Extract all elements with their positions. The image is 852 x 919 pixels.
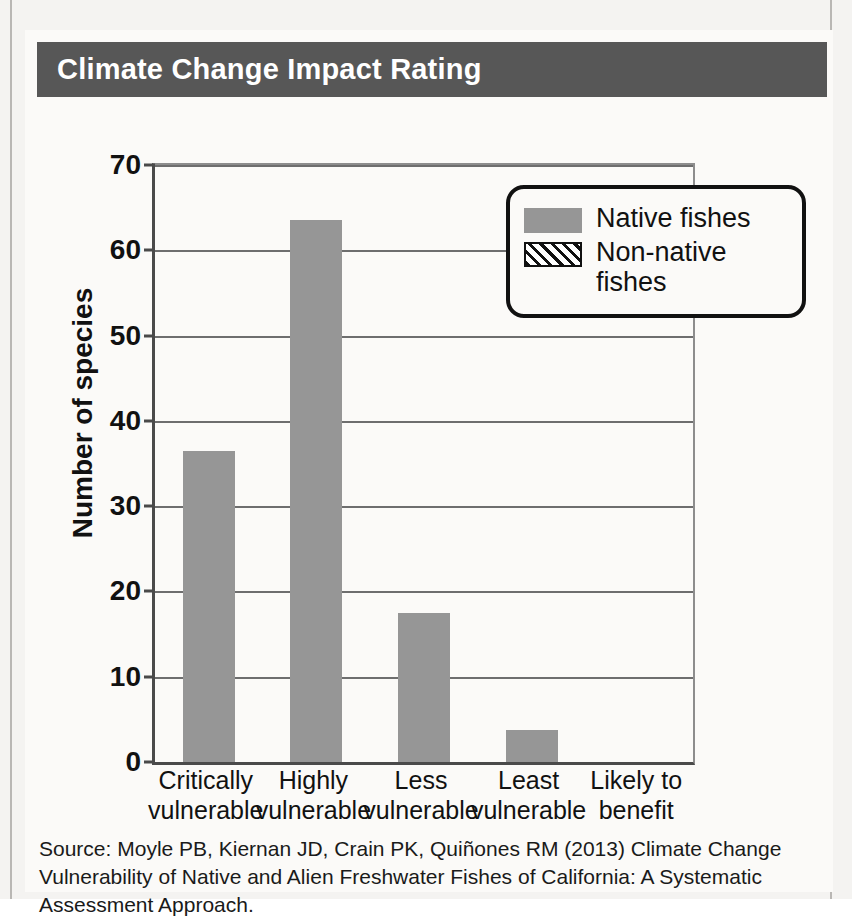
chart-card: Climate Change Impact Rating Number of s… xyxy=(25,30,833,892)
x-axis-category-label: Lessvulnerable xyxy=(363,766,478,825)
x-axis-category-label: Leastvulnerable xyxy=(471,766,586,825)
y-axis-tick-mark xyxy=(144,419,155,422)
x-axis-labels: CriticallyvulnerableHighlyvulnerableLess… xyxy=(152,766,696,836)
y-axis-tick-label: 30 xyxy=(110,490,141,522)
legend-swatch-hatched xyxy=(524,242,582,267)
chart-area: Number of species 010203040506070 Critic… xyxy=(25,97,833,827)
y-axis-tick-label: 0 xyxy=(125,746,141,778)
gridline xyxy=(155,506,693,508)
gridline xyxy=(155,591,693,593)
x-axis-category-label: Likely tobenefit xyxy=(590,766,682,825)
legend-item[interactable]: Native fishes xyxy=(524,203,788,233)
legend-swatch-solid xyxy=(524,208,582,233)
legend-item[interactable]: Non-native fishes xyxy=(524,237,788,297)
y-axis-tick-mark xyxy=(144,164,155,167)
page-column-rule-left xyxy=(10,0,12,899)
bar xyxy=(290,220,342,762)
y-axis-tick-label: 50 xyxy=(110,320,141,352)
source-caption: Source: Moyle PB, Kiernan JD, Crain PK, … xyxy=(39,835,821,919)
gridline xyxy=(155,165,693,167)
y-axis-tick-mark xyxy=(144,334,155,337)
page-title: Climate Change Impact Rating xyxy=(37,53,482,86)
gridline xyxy=(155,421,693,423)
x-axis-category-label: Highlyvulnerable xyxy=(256,766,371,825)
x-axis-category-label: Criticallyvulnerable xyxy=(148,766,263,825)
gridline xyxy=(155,336,693,338)
y-axis-tick-label: 10 xyxy=(110,661,141,693)
y-axis-title: Number of species xyxy=(67,203,99,623)
chart-title-band: Climate Change Impact Rating xyxy=(37,42,827,97)
y-axis-tick-mark xyxy=(144,675,155,678)
y-axis-tick-label: 40 xyxy=(110,405,141,437)
legend-label: Non-native fishes xyxy=(596,237,788,297)
y-axis-tick-label: 60 xyxy=(110,234,141,266)
y-axis-tick-mark xyxy=(144,590,155,593)
bar xyxy=(183,451,235,762)
legend-label: Native fishes xyxy=(596,203,751,233)
y-axis-tick-mark xyxy=(144,761,155,764)
y-axis-tick-label: 20 xyxy=(110,575,141,607)
bar xyxy=(506,730,558,762)
y-axis-tick-mark xyxy=(144,505,155,508)
y-axis-tick-mark xyxy=(144,249,155,252)
chart-legend: Native fishesNon-native fishes xyxy=(506,185,806,318)
y-axis-tick-label: 70 xyxy=(110,149,141,181)
bar xyxy=(398,613,450,762)
